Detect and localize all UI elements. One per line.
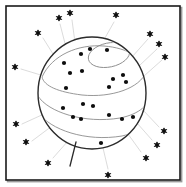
surface-dot-4 (68, 71, 72, 75)
surface-dot-6 (111, 77, 115, 81)
sphere-body (38, 37, 146, 149)
surface-dot-11 (81, 102, 85, 106)
sphere-group (38, 37, 146, 149)
surface-dot-1 (105, 48, 109, 52)
surface-dot-10 (64, 86, 68, 90)
surface-dot-18 (131, 115, 135, 119)
surface-dot-16 (107, 113, 111, 117)
surface-dot-17 (120, 117, 124, 121)
surface-dot-15 (79, 117, 83, 121)
surface-dot-2 (62, 61, 66, 65)
illustration-canvas (0, 0, 186, 187)
surface-dot-14 (71, 115, 75, 119)
surface-dot-19 (99, 141, 103, 145)
surface-dot-9 (107, 85, 111, 89)
surface-dot-0 (79, 52, 83, 56)
surface-dot-5 (80, 69, 84, 73)
surface-dot-3 (88, 47, 92, 51)
surface-dot-7 (121, 73, 125, 77)
surface-dot-13 (91, 104, 95, 108)
surface-dot-12 (61, 106, 65, 110)
surface-dot-8 (124, 80, 128, 84)
sphere-and-stars-drawing (0, 0, 186, 187)
